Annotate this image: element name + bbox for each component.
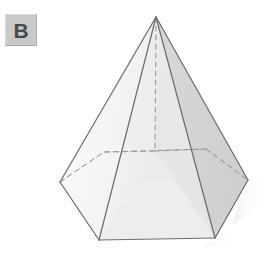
label-badge: B <box>5 14 37 46</box>
label-badge-text: B <box>13 20 28 41</box>
figure-screenshot: B <box>0 0 275 259</box>
pyramid-lateral-faces <box>60 17 248 240</box>
hexagonal-pyramid-figure <box>0 0 275 259</box>
